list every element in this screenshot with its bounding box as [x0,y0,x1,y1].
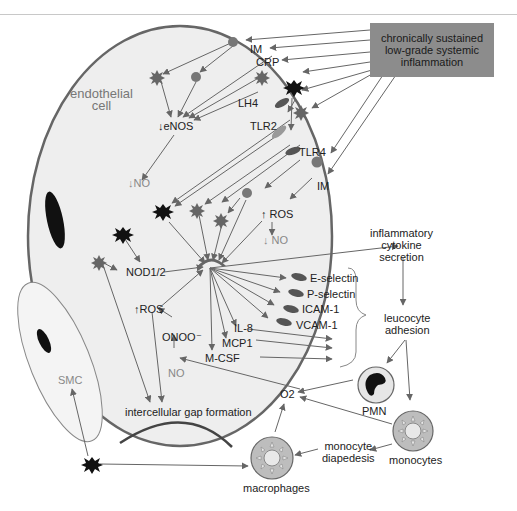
cytokine-line-2: cytokine [370,239,433,251]
diapedesis-line-2: diapedesis [322,452,375,464]
label-nod: NOD1/2 [126,266,166,278]
cytokine-line-1: inflammatory [370,227,433,239]
source-line-1: chronically sustained [381,32,483,44]
label-ros-right: ↑ ROS [261,208,293,220]
endothelial-cell-label: endothelial cell [70,88,133,112]
label-mcsf: M-CSF [205,352,240,364]
label-smc: SMC [58,374,82,386]
cytokine-line-3: secretion [370,251,433,263]
label-leucocyte-adhesion: leucocyte adhesion [384,312,430,336]
label-il8: IL-8 [234,322,253,334]
source-line-3: inflammation [381,56,483,68]
label-no-left: ↓NO [128,177,150,189]
label-tlr4: TLR4 [299,146,326,158]
label-monocyte-diapedesis: monocyte diapedesis [322,440,375,464]
label-lh4: LH4 [238,97,258,109]
label-enos: ↓eNOS [158,120,193,132]
label-monocytes: monocytes [389,454,442,466]
source-line-2: low-grade systemic [381,44,483,56]
adhesion-line-1: leucocyte [384,312,430,324]
label-ros-lower: ↑ROS [134,303,163,315]
label-crp: CRP [256,56,279,68]
cell-label-line-2: cell [70,100,133,112]
label-no-right: ↓ NO [263,234,288,246]
label-im-right: IM [317,180,329,192]
label-tlr2: TLR2 [250,120,277,132]
label-icam1: ICAM-1 [302,303,339,315]
label-mcp1: MCP1 [222,337,253,349]
label-cytokine-secretion: inflammatory cytokine secretion [370,227,433,263]
inflammation-source-box: chronically sustained low-grade systemic… [370,23,494,77]
label-intercellular-gap: intercellular gap formation [125,406,252,418]
label-p-selectin: P-selectin [307,288,355,300]
label-no-lower: NO [168,367,185,379]
label-pmn: PMN [362,405,386,417]
label-vcam1: VCAM-1 [296,319,338,331]
label-onoo: ONOO⁻ [162,331,202,343]
label-o2: O2 [280,388,295,400]
label-e-selectin: E-selectin [310,272,358,284]
diapedesis-line-1: monocyte [322,440,375,452]
label-im-top: IM [250,43,262,55]
label-macrophages: macrophages [243,482,310,494]
adhesion-line-2: adhesion [384,324,430,336]
